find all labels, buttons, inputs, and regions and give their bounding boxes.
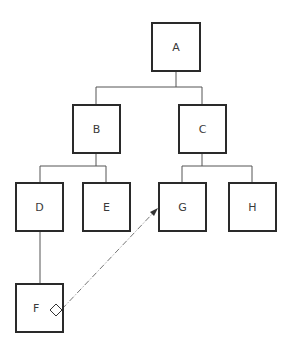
node-f[interactable]: F (15, 283, 64, 333)
node-d-label: D (35, 202, 43, 213)
node-f-label: F (33, 303, 39, 314)
node-h-label: H (248, 202, 256, 213)
node-g-label: G (178, 202, 187, 213)
node-a-label: A (172, 42, 180, 53)
node-g[interactable]: G (158, 182, 207, 232)
tree-diagram: A B C D E G H F (0, 0, 294, 351)
node-h[interactable]: H (228, 182, 277, 232)
node-d[interactable]: D (15, 182, 64, 232)
node-a[interactable]: A (151, 22, 201, 72)
node-c-label: C (199, 124, 207, 135)
node-b[interactable]: B (72, 104, 121, 154)
node-b-label: B (93, 124, 101, 135)
node-e-label: E (103, 202, 110, 213)
node-e[interactable]: E (82, 182, 131, 232)
node-c[interactable]: C (178, 104, 227, 154)
